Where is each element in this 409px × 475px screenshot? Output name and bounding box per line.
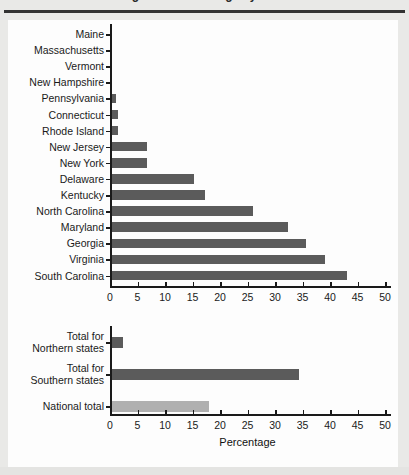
bar-kentucky: [112, 190, 206, 200]
chart0-label: Delaware: [60, 173, 104, 184]
chart0-y-tick: [106, 34, 110, 36]
chart0-x-tick-label: 35: [291, 291, 315, 303]
chart0-x-tick-label: 30: [263, 291, 287, 303]
bar-national-total: [112, 401, 209, 412]
totals-bar-chart: Total forNorthern statesTotal forSouther…: [8, 326, 398, 466]
chart0-y-tick: [106, 50, 110, 52]
chart0-x-tick-label: 10: [153, 291, 177, 303]
figure-plate: MaineMassachusettsVermontNew HampshirePe…: [8, 20, 398, 467]
chart1-label: National total: [43, 401, 104, 412]
chart0-x-tick: [220, 282, 222, 287]
chart1-label: Total forNorthern states: [8, 331, 104, 354]
chart0-x-tick: [303, 282, 305, 287]
chart0-label: Kentucky: [61, 190, 104, 201]
chart0-y-tick: [106, 82, 110, 84]
bar-georgia: [112, 239, 306, 249]
chart1-y-tick: [106, 406, 110, 408]
chart0-x-tick-label: 50: [373, 291, 397, 303]
chart1-x-tick-label: 15: [181, 419, 205, 431]
chart1-plot: 05101520253035404550: [110, 326, 399, 414]
chart1-x-tick-label: 30: [263, 419, 287, 431]
chart1-x-tick-label: 10: [153, 419, 177, 431]
chart0-x-tick: [193, 282, 195, 287]
chart0-label: Virginia: [69, 254, 104, 265]
chart1-x-axis: [110, 414, 391, 416]
chart1-x-tick-label: 0: [98, 419, 122, 431]
chart0-y-tick: [106, 259, 110, 261]
chart0-label: New Jersey: [49, 141, 104, 152]
state-percentage-bar-chart: MaineMassachusettsVermontNew HampshirePe…: [8, 24, 398, 316]
chart1-y-tick: [106, 342, 110, 344]
chart1-x-tick: [248, 410, 250, 415]
chart0-x-tick-label: 40: [318, 291, 342, 303]
chart1-x-tick: [138, 410, 140, 415]
chart0-y-tick: [106, 131, 110, 133]
chart0-x-tick-label: 25: [236, 291, 260, 303]
chart0-label: Maryland: [61, 222, 104, 233]
chart1-x-tick: [385, 410, 387, 415]
chart1-x-tick-label: 50: [373, 419, 397, 431]
chart1-label: Total forSouthern states: [8, 363, 104, 386]
bar-maryland: [112, 222, 289, 232]
bar-new-york: [112, 158, 147, 168]
chart0-label: New Hampshire: [29, 77, 104, 88]
bar-rhode-island: [112, 126, 119, 136]
chart0-x-tick-label: 20: [208, 291, 232, 303]
figure-page: Figure 1. Percentage by state MaineMassa…: [0, 0, 409, 475]
chart0-y-tick: [106, 211, 110, 213]
bar-total-for-southern-states: [112, 369, 300, 380]
chart1-x-tick: [193, 410, 195, 415]
chart0-label: North Carolina: [36, 206, 104, 217]
chart0-x-tick: [138, 282, 140, 287]
chart0-label: Pennsylvania: [42, 93, 104, 104]
chart1-y-tick: [106, 374, 110, 376]
chart0-y-tick: [106, 227, 110, 229]
chart0-x-tick: [248, 282, 250, 287]
chart1-x-tick: [275, 410, 277, 415]
chart0-x-tick: [330, 282, 332, 287]
chart1-x-tick-label: 35: [291, 419, 315, 431]
chart0-y-tick: [106, 195, 110, 197]
bar-connecticut: [112, 110, 118, 120]
chart1-x-tick: [303, 410, 305, 415]
chart0-label: Georgia: [67, 238, 104, 249]
chart0-y-tick: [106, 179, 110, 181]
bar-total-for-northern-states: [112, 337, 123, 348]
chart1-x-tick-label: 45: [346, 419, 370, 431]
chart1-x-tick: [330, 410, 332, 415]
bar-delaware: [112, 174, 195, 184]
chart0-y-tick: [106, 276, 110, 278]
chart0-x-tick: [385, 282, 387, 287]
chart0-x-tick: [358, 282, 360, 287]
chart0-y-tick: [106, 115, 110, 117]
chart1-x-tick-label: 20: [208, 419, 232, 431]
chart0-y-tick: [106, 98, 110, 100]
chart0-label: Connecticut: [49, 109, 104, 120]
chart0-x-tick: [275, 282, 277, 287]
chart0-plot: 05101520253035404550: [110, 24, 399, 286]
bar-virginia: [112, 255, 326, 265]
chart0-label: Massachusetts: [34, 45, 104, 56]
chart1-x-tick-label: 5: [126, 419, 150, 431]
cropped-caption: Figure 1. Percentage by state: [0, 0, 409, 2]
chart0-y-tick: [106, 243, 110, 245]
bar-new-jersey: [112, 142, 147, 152]
chart0-y-tick: [106, 66, 110, 68]
horizontal-rule: [4, 10, 405, 13]
chart1-x-tick-label: 40: [318, 419, 342, 431]
chart0-x-axis: [110, 286, 391, 288]
chart0-x-tick-label: 0: [98, 291, 122, 303]
chart1-x-tick: [110, 410, 112, 415]
chart0-x-tick-label: 45: [346, 291, 370, 303]
chart0-label: South Carolina: [35, 270, 104, 281]
chart0-x-tick-label: 5: [126, 291, 150, 303]
chart0-label: Maine: [75, 29, 104, 40]
bar-north-carolina: [112, 206, 254, 216]
bar-pennsylvania: [112, 94, 117, 104]
bar-south-carolina: [112, 271, 348, 281]
x-axis-title: Percentage: [110, 436, 385, 448]
chart0-label: Vermont: [65, 61, 104, 72]
chart1-x-tick: [358, 410, 360, 415]
chart0-y-tick: [106, 163, 110, 165]
chart1-x-tick: [220, 410, 222, 415]
